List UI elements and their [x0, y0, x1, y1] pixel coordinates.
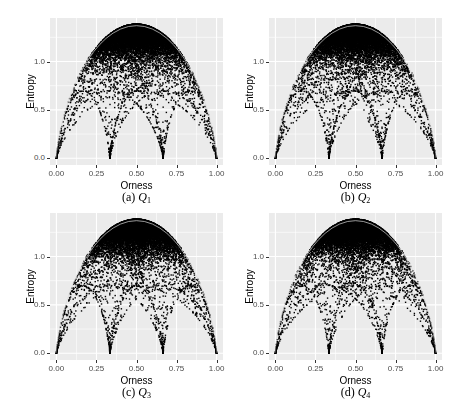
x-tick-mark — [177, 165, 178, 168]
x-tick-label: 0.75 — [381, 170, 411, 178]
y-tick-mark — [47, 257, 50, 258]
x-tick-mark — [436, 360, 437, 363]
x-tick-mark — [315, 360, 316, 363]
subfigure-b: 0.00.51.00.000.250.500.751.00EntropyOrne… — [219, 0, 449, 207]
x-tick-label: 1.00 — [421, 365, 451, 373]
x-tick-label: 0.50 — [122, 170, 152, 178]
x-tick-mark — [217, 360, 218, 363]
x-tick-mark — [356, 360, 357, 363]
subfigure-d: 0.00.51.00.000.250.500.751.00EntropyOrne… — [219, 195, 449, 402]
y-axis-label: Entropy — [25, 256, 36, 316]
scatter-canvas — [50, 18, 223, 165]
x-tick-label: 0.00 — [260, 365, 290, 373]
y-axis-label: Entropy — [244, 61, 255, 121]
x-tick-label: 0.25 — [81, 170, 111, 178]
x-tick-label: 0.25 — [300, 365, 330, 373]
x-tick-label: 0.75 — [162, 365, 192, 373]
x-tick-label: 0.50 — [341, 170, 371, 178]
y-tick-label: 0.0 — [23, 154, 45, 162]
x-tick-mark — [436, 165, 437, 168]
y-tick-mark — [47, 305, 50, 306]
x-tick-mark — [396, 360, 397, 363]
y-tick-label: 0.0 — [23, 349, 45, 357]
x-tick-label: 0.75 — [162, 170, 192, 178]
scatter-canvas — [269, 18, 442, 165]
x-tick-mark — [275, 360, 276, 363]
y-tick-mark — [47, 158, 50, 159]
x-tick-label: 0.50 — [122, 365, 152, 373]
y-tick-mark — [266, 305, 269, 306]
subfigure-a: 0.00.51.00.000.250.500.751.00EntropyOrne… — [0, 0, 230, 207]
x-tick-mark — [137, 360, 138, 363]
x-tick-mark — [356, 165, 357, 168]
subfigure-caption: (c) Q3 — [50, 385, 223, 400]
scatter-canvas — [50, 213, 223, 360]
y-tick-mark — [47, 353, 50, 354]
y-tick-mark — [266, 257, 269, 258]
y-tick-mark — [266, 110, 269, 111]
x-tick-mark — [275, 165, 276, 168]
x-tick-label: 0.25 — [81, 365, 111, 373]
subfigure-c: 0.00.51.00.000.250.500.751.00EntropyOrne… — [0, 195, 230, 402]
x-tick-mark — [96, 360, 97, 363]
scatter-canvas — [269, 213, 442, 360]
caption-subscript: 3 — [147, 391, 151, 400]
x-tick-label: 0.50 — [341, 365, 371, 373]
x-tick-mark — [56, 165, 57, 168]
caption-prefix: (c) — [122, 385, 135, 399]
plot-panel — [269, 18, 442, 165]
y-axis-label: Entropy — [244, 256, 255, 316]
plot-panel — [50, 18, 223, 165]
x-tick-mark — [217, 165, 218, 168]
x-tick-label: 0.75 — [381, 365, 411, 373]
y-tick-mark — [266, 62, 269, 63]
subfigure-caption: (d) Q4 — [269, 385, 442, 400]
plot-panel — [269, 213, 442, 360]
y-tick-mark — [47, 62, 50, 63]
x-tick-label: 0.00 — [41, 170, 71, 178]
caption-prefix: (d) — [341, 385, 355, 399]
x-tick-mark — [96, 165, 97, 168]
y-tick-label: 0.0 — [242, 349, 264, 357]
y-tick-label: 0.0 — [242, 154, 264, 162]
x-tick-mark — [56, 360, 57, 363]
caption-symbol: Q — [138, 385, 147, 399]
x-tick-mark — [177, 360, 178, 363]
x-tick-label: 0.00 — [41, 365, 71, 373]
x-tick-label: 0.00 — [260, 170, 290, 178]
x-tick-label: 1.00 — [421, 170, 451, 178]
caption-subscript: 4 — [366, 391, 370, 400]
x-tick-mark — [396, 165, 397, 168]
x-tick-label: 0.25 — [300, 170, 330, 178]
x-tick-mark — [315, 165, 316, 168]
y-tick-mark — [266, 158, 269, 159]
y-axis-label: Entropy — [25, 61, 36, 121]
x-tick-mark — [137, 165, 138, 168]
y-tick-mark — [266, 353, 269, 354]
y-tick-mark — [47, 110, 50, 111]
plot-panel — [50, 213, 223, 360]
